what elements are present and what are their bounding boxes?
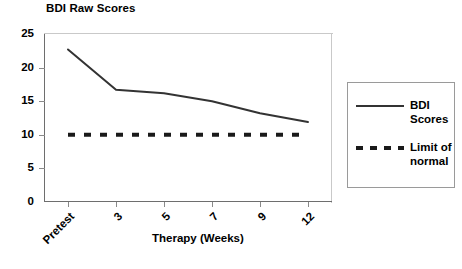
legend-label-line1: Limit of (410, 141, 452, 153)
x-tick-mark (164, 202, 165, 207)
legend-label-line1: BDI (410, 99, 430, 111)
x-tick-label: 12 (266, 210, 317, 261)
legend-label-line2: normal (410, 155, 448, 167)
legend-label-limit-of-normal: Limit of normal (410, 141, 456, 168)
x-axis-title: Therapy (Weeks) (152, 232, 244, 244)
legend: BDI Scores Limit of normal (347, 82, 455, 188)
y-tick-label: 25 (0, 28, 34, 40)
y-tick-mark (39, 168, 45, 169)
y-tick-mark (39, 68, 45, 69)
x-tick-mark (116, 202, 117, 207)
legend-label-line2: Scores (410, 113, 448, 125)
chart-title: BDI Raw Scores (46, 2, 136, 14)
dashed-line-swatch-icon (356, 141, 404, 155)
x-tick-mark (308, 202, 309, 207)
x-tick-mark (212, 202, 213, 207)
y-tick-label: 20 (0, 62, 34, 74)
x-tick-label: Pretest (26, 210, 77, 261)
x-tick-mark (260, 202, 261, 207)
y-tick-label: 5 (0, 162, 34, 174)
legend-label-bdi-scores: BDI Scores (410, 99, 456, 126)
legend-item-limit-of-normal: Limit of normal (356, 141, 456, 168)
plot-area (44, 34, 332, 202)
legend-item-bdi-scores: BDI Scores (356, 99, 456, 126)
x-tick-mark (68, 202, 69, 207)
solid-line-swatch-icon (356, 99, 404, 113)
chart-figure: BDI Raw Scores 0510152025 Pretest357912 … (0, 0, 462, 269)
x-tick-label: 3 (74, 210, 125, 261)
y-tick-mark (39, 101, 45, 102)
y-tick-label: 0 (0, 196, 34, 208)
y-tick-mark (39, 135, 45, 136)
y-tick-label: 15 (0, 95, 34, 107)
y-tick-label: 10 (0, 129, 34, 141)
